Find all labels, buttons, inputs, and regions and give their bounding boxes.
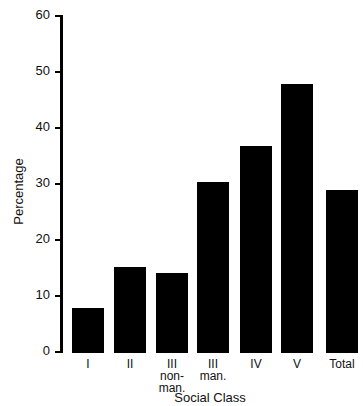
y-tick-label: 40 [20, 119, 50, 134]
bar [197, 182, 229, 353]
bar [281, 84, 313, 353]
y-tick [55, 295, 61, 297]
x-axis-label: Social Class [150, 390, 270, 405]
bar [114, 267, 146, 353]
x-category-label: II [108, 358, 152, 370]
y-tick [55, 183, 61, 185]
y-tick [55, 127, 61, 129]
y-tick-label: 50 [20, 63, 50, 78]
y-tick [55, 71, 61, 73]
bar [240, 146, 272, 353]
x-category-label: III non- man. [150, 358, 194, 394]
y-tick-label: 60 [20, 7, 50, 22]
bar-chart: 0102030405060IIIIII non- man.III man.IVV… [0, 0, 363, 406]
y-tick-label: 20 [20, 231, 50, 246]
y-tick-label: 0 [20, 343, 50, 358]
bar [326, 190, 358, 353]
y-tick [55, 239, 61, 241]
y-axis-label: Percentage [11, 152, 26, 232]
y-tick-label: 10 [20, 287, 50, 302]
x-category-label: I [66, 358, 110, 370]
bar [72, 308, 104, 353]
x-category-label: Total [320, 358, 363, 370]
x-category-label: III man. [191, 358, 235, 382]
x-category-label: V [275, 358, 319, 370]
x-category-label: IV [234, 358, 278, 370]
bar [156, 273, 188, 353]
y-tick [55, 351, 61, 353]
y-tick [55, 15, 61, 17]
